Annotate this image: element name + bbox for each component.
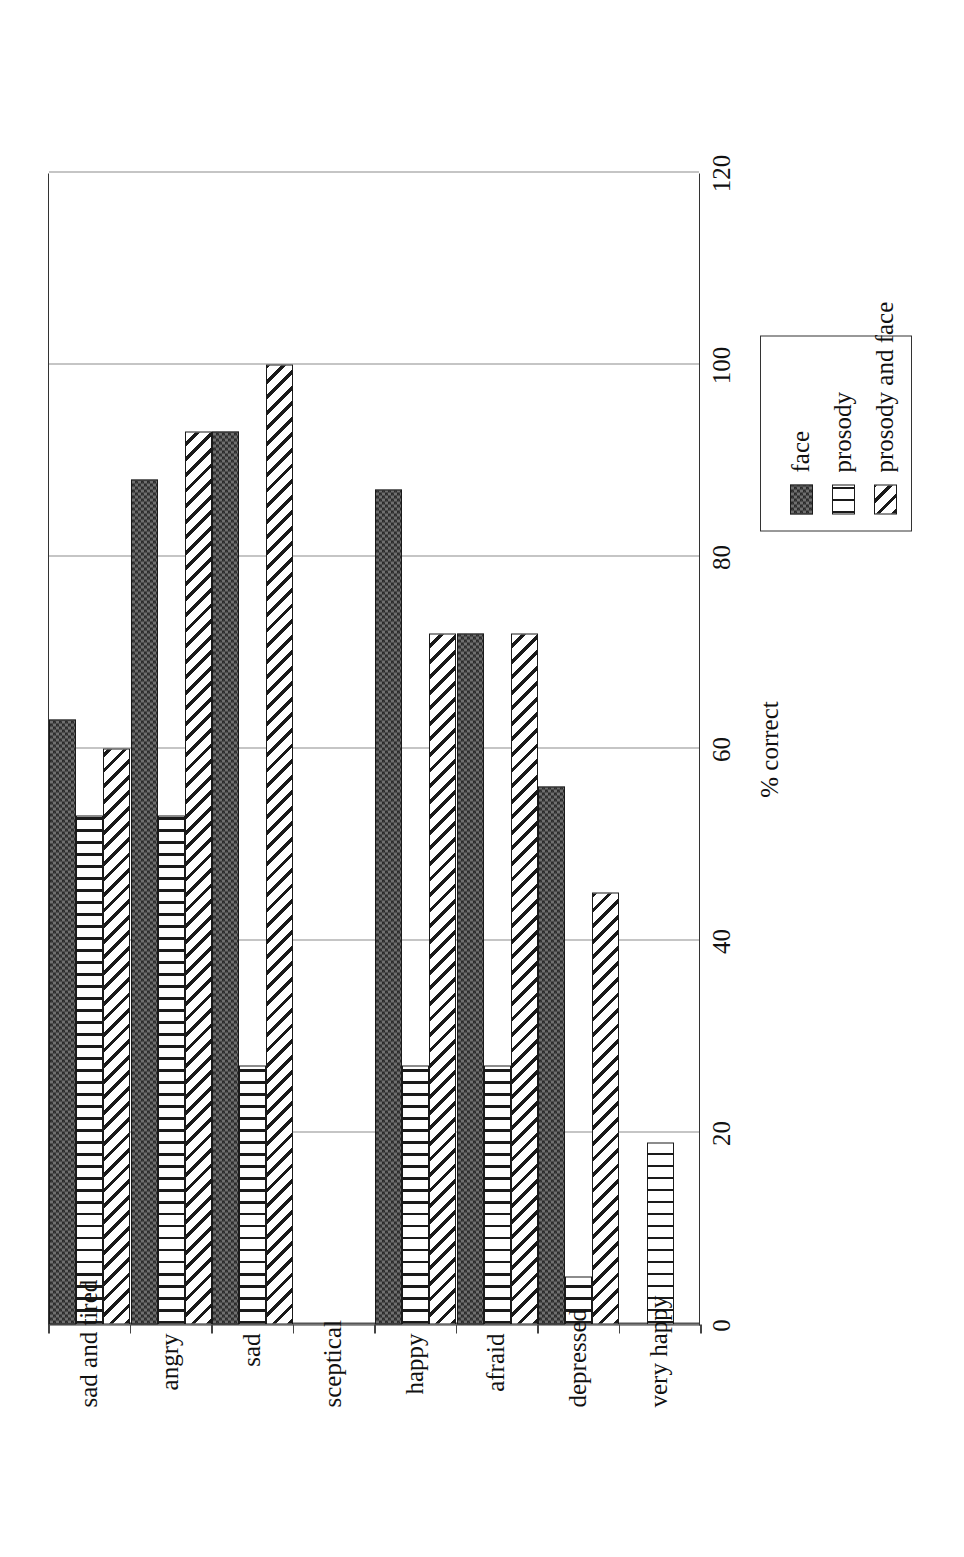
bar-depressed-prosody-and-face — [592, 892, 619, 1324]
category-axis-tick-2 — [211, 1324, 213, 1333]
bar-happy-prosody — [402, 1065, 429, 1324]
legend: face prosody prosody and face — [760, 335, 912, 531]
legend-label-prosody-and-face: prosody and face — [871, 301, 899, 472]
legend-swatch-face-icon — [790, 484, 813, 514]
category-axis-tick-0 — [48, 1324, 50, 1333]
category-axis-tick-5 — [456, 1324, 458, 1333]
bar-sad-and-tired-prosody — [76, 815, 103, 1324]
category-label-very-happy: very happy — [645, 1333, 673, 1407]
legend-swatch-prosody-icon — [832, 484, 855, 514]
value-axis-tick-label-100: 100 — [708, 346, 736, 384]
category-label-afraid: afraid — [482, 1333, 510, 1407]
category-label-sad-and-tired: sad and tired — [75, 1333, 103, 1407]
legend-label-face: face — [787, 430, 815, 472]
category-axis-tick-4 — [374, 1324, 376, 1333]
bar-happy-face — [375, 489, 402, 1324]
value-axis-tick-label-40: 40 — [708, 929, 736, 954]
bar-sad-and-tired-prosody-and-face — [103, 748, 130, 1324]
category-axis-tick-1 — [130, 1324, 132, 1333]
category-label-sad: sad — [238, 1333, 266, 1407]
bar-angry-face — [131, 479, 158, 1324]
bar-sad-and-tired-face — [49, 719, 76, 1324]
category-axis-tick-7 — [619, 1324, 621, 1333]
value-axis-tick-label-80: 80 — [708, 545, 736, 570]
gridline-100 — [49, 363, 699, 364]
bar-angry-prosody-and-face — [185, 431, 212, 1324]
legend-label-prosody: prosody — [829, 391, 857, 472]
legend-swatch-prosody-and-face-icon — [874, 484, 897, 514]
value-axis-tick-label-60: 60 — [708, 737, 736, 762]
category-label-angry: angry — [156, 1333, 184, 1407]
bar-happy-prosody-and-face — [429, 633, 456, 1324]
category-axis-tick-end — [700, 1324, 702, 1333]
bar-afraid-prosody-and-face — [511, 633, 538, 1324]
category-label-depressed: depressed — [564, 1333, 592, 1407]
category-label-sceptical: sceptical — [319, 1333, 347, 1407]
bar-afraid-face — [457, 633, 484, 1324]
value-axis-tick-label-20: 20 — [708, 1121, 736, 1146]
bar-angry-prosody — [158, 815, 185, 1324]
bar-depressed-face — [538, 786, 565, 1324]
value-axis-tick-label-0: 0 — [708, 1319, 736, 1332]
bar-afraid-prosody — [484, 1065, 511, 1324]
bar-sad-prosody — [239, 1065, 266, 1324]
gridline-120 — [49, 171, 699, 172]
value-axis-tick-label-120: 120 — [708, 154, 736, 192]
legend-item-prosody-and-face: prosody and face — [867, 336, 903, 514]
category-axis-tick-6 — [537, 1324, 539, 1333]
bar-chart-figure: 020406080100120 % correct sad and tireda… — [0, 0, 964, 1557]
category-label-happy: happy — [401, 1333, 429, 1407]
bar-sad-prosody-and-face — [266, 364, 293, 1324]
legend-item-prosody: prosody — [825, 336, 861, 514]
category-axis-tick-3 — [293, 1324, 295, 1333]
plot-area — [48, 173, 700, 1325]
bar-sad-face — [212, 431, 239, 1324]
rotated-chart-stage: 020406080100120 % correct sad and tireda… — [0, 0, 964, 1557]
legend-item-face: face — [783, 336, 819, 514]
